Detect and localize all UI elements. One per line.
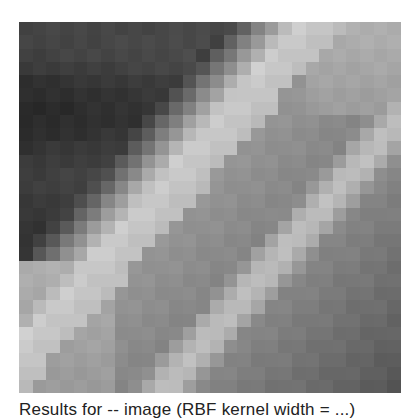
heatmap-cell [224,287,238,300]
heatmap-cell [387,128,401,141]
heatmap-cell [210,300,224,313]
heatmap-cell [306,141,320,154]
heatmap-cell [224,75,238,88]
heatmap-cell [115,49,129,62]
heatmap-cell [237,380,251,393]
heatmap-cell [155,62,169,75]
heatmap-cell [319,194,333,207]
heatmap-cell [333,22,347,35]
heatmap-cell [87,274,101,287]
heatmap-cell [33,314,47,327]
heatmap-cell [115,181,129,194]
heatmap-cell [333,128,347,141]
heatmap-cell [169,35,183,48]
heatmap-cell [237,287,251,300]
heatmap-cell [155,287,169,300]
heatmap-cell [346,221,360,234]
heatmap-cell [142,340,156,353]
heatmap-cell [333,62,347,75]
heatmap-cell [278,181,292,194]
heatmap-cell [183,75,197,88]
heatmap-cell [128,181,142,194]
heatmap-cell [196,141,210,154]
heatmap-cell [33,168,47,181]
heatmap-cell [292,128,306,141]
heatmap-cell [306,221,320,234]
heatmap-cell [333,35,347,48]
heatmap-cell [265,75,279,88]
heatmap-cell [292,221,306,234]
heatmap-cell [196,208,210,221]
heatmap-cell [333,247,347,260]
heatmap-cell [33,208,47,221]
heatmap-image [19,22,401,393]
heatmap-cell [265,327,279,340]
heatmap-cell [142,88,156,101]
heatmap-cell [87,247,101,260]
heatmap-cell [155,115,169,128]
heatmap-cell [196,367,210,380]
heatmap-cell [128,22,142,35]
heatmap-cell [87,49,101,62]
heatmap-cell [251,287,265,300]
heatmap-cell [115,353,129,366]
heatmap-cell [101,287,115,300]
heatmap-cell [346,340,360,353]
heatmap-cell [319,88,333,101]
heatmap-cell [128,168,142,181]
heatmap-cell [19,62,33,75]
heatmap-cell [128,208,142,221]
heatmap-cell [46,62,60,75]
heatmap-cell [210,353,224,366]
heatmap-cell [346,247,360,260]
heatmap-cell [33,287,47,300]
heatmap-cell [319,287,333,300]
heatmap-cell [360,181,374,194]
heatmap-cell [183,327,197,340]
heatmap-cell [74,221,88,234]
heatmap-cell [183,380,197,393]
heatmap-cell [33,181,47,194]
heatmap-cell [333,314,347,327]
heatmap-cell [360,380,374,393]
heatmap-cell [360,314,374,327]
heatmap-cell [19,155,33,168]
heatmap-cell [128,102,142,115]
heatmap-cell [292,62,306,75]
heatmap-cell [87,340,101,353]
heatmap-cell [128,75,142,88]
heatmap-cell [237,274,251,287]
heatmap-cell [374,88,388,101]
heatmap-cell [46,274,60,287]
heatmap-cell [142,141,156,154]
heatmap-cell [346,35,360,48]
heatmap-cell [374,340,388,353]
heatmap-cell [210,221,224,234]
heatmap-cell [183,234,197,247]
heatmap-cell [292,367,306,380]
heatmap-cell [196,221,210,234]
heatmap-cell [46,194,60,207]
heatmap-cell [101,102,115,115]
heatmap-cell [251,314,265,327]
heatmap-cell [46,115,60,128]
heatmap-cell [319,314,333,327]
heatmap-cell [142,22,156,35]
heatmap-cell [74,102,88,115]
heatmap-cell [87,300,101,313]
heatmap-cell [33,75,47,88]
heatmap-cell [251,128,265,141]
heatmap-cell [142,234,156,247]
heatmap-cell [278,367,292,380]
heatmap-cell [115,22,129,35]
heatmap-cell [128,367,142,380]
heatmap-cell [333,367,347,380]
heatmap-cell [60,62,74,75]
heatmap-cell [19,128,33,141]
heatmap-cell [265,88,279,101]
heatmap-cell [237,49,251,62]
heatmap-cell [237,88,251,101]
heatmap-cell [224,35,238,48]
heatmap-cell [224,194,238,207]
heatmap-cell [155,22,169,35]
